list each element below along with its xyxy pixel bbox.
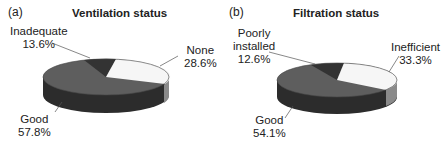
chart-filtration-status: (b) Filtration status Poorly installed 1… (223, 0, 446, 144)
chart-ventilation-status: (a) Ventilation status Inadequate 13.6% … (0, 0, 223, 144)
chart-title: Filtration status (293, 7, 379, 19)
label-good: Good 57.8% (18, 113, 51, 139)
label-inadequate: Inadequate 13.6% (10, 25, 68, 51)
panel-tag: (a) (8, 5, 23, 19)
panel-tag: (b) (229, 5, 244, 19)
chart-title: Ventilation status (72, 7, 167, 19)
label-inefficient: Inefficient 33.3% (391, 41, 440, 67)
label-none: None 28.6% (184, 44, 217, 70)
label-poorly-installed: Poorly installed 12.6% (233, 27, 275, 66)
label-good: Good 54.1% (253, 114, 286, 140)
